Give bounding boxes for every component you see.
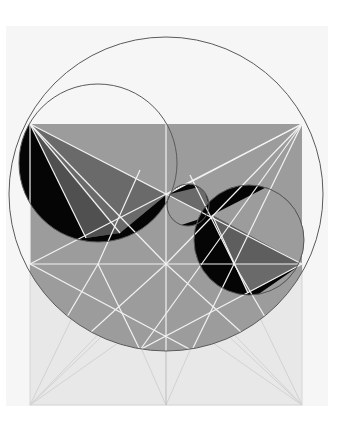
geometric-figure (0, 0, 344, 431)
diagram-canvas: Geometric construction: circle, square a… (0, 0, 344, 431)
